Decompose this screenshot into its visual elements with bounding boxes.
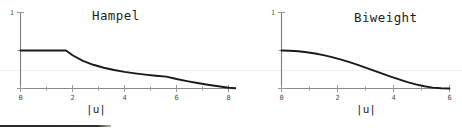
figure-two-weight-functions: 1 0 2 4 6 8 Hampel |u| (0, 0, 462, 133)
biweight-weight-curve (282, 51, 450, 89)
page-rule-fragment (0, 125, 111, 127)
biweight-chart-title: Biweight (354, 10, 417, 25)
hampel-chart-title: Hampel (92, 8, 140, 23)
biweight-x-ticklabel-4: 4 (391, 94, 395, 102)
hampel-x-ticklabel-2: 2 (70, 94, 74, 102)
hampel-x-ticklabel-6: 6 (174, 94, 178, 102)
chart-panel-hampel: 1 0 2 4 6 8 Hampel |u| (0, 0, 236, 133)
hampel-plot-svg: 1 0 2 4 6 8 Hampel |u| (0, 0, 236, 133)
hampel-xaxis-title: |u| (86, 103, 106, 116)
biweight-x-ticklabel-0: 0 (279, 94, 283, 102)
biweight-plot-svg: 1 0 2 4 6 Biweight |u| (236, 0, 462, 133)
hampel-weight-curve (21, 51, 237, 89)
biweight-x-ticklabel-2: 2 (335, 94, 339, 102)
hampel-x-ticklabel-8: 8 (226, 94, 230, 102)
hampel-y-ticklabel-1: 1 (10, 9, 14, 17)
biweight-y-ticklabel-1: 1 (271, 9, 275, 17)
biweight-xaxis-title: |u| (356, 103, 376, 116)
biweight-x-ticklabel-6: 6 (447, 94, 451, 102)
hampel-x-ticklabel-0: 0 (18, 94, 22, 102)
chart-panel-biweight: 1 0 2 4 6 Biweight |u| (236, 0, 462, 133)
hampel-x-ticklabel-4: 4 (122, 94, 126, 102)
